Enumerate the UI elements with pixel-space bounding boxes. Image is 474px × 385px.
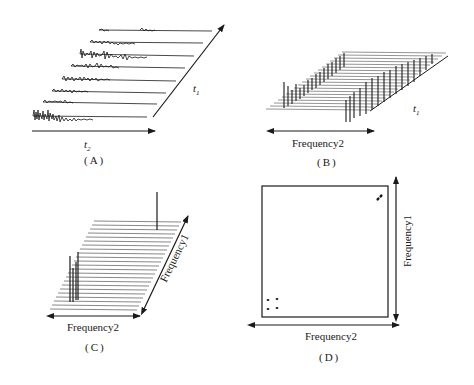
contour-peaks	[267, 194, 384, 310]
caption-c: (C)	[85, 341, 106, 353]
peak-lines	[284, 53, 432, 122]
panel-d	[254, 177, 399, 325]
t2-label-a: t2	[84, 138, 91, 155]
caption-d: (D)	[319, 351, 340, 363]
t1-label-b: t1	[413, 102, 420, 119]
frequency2-label-d: Frequency2	[305, 330, 357, 342]
panel-b	[266, 52, 448, 131]
panel-a	[32, 25, 224, 131]
contour-map-frame	[262, 186, 388, 317]
t1-label-a: t1	[193, 82, 200, 99]
panel-c	[50, 192, 188, 316]
t1-axis-arrow	[153, 25, 224, 117]
frequency2-label-c: Frequency2	[67, 321, 119, 333]
caption-a: (A)	[84, 154, 105, 166]
frequency2-label-b: Frequency2	[292, 137, 344, 149]
caption-b: (B)	[317, 156, 338, 168]
frequency1-label-d: Frequency1	[401, 215, 413, 267]
